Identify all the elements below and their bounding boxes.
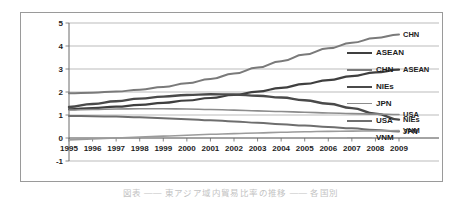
legend-label-asean: ASEAN xyxy=(376,49,404,57)
legend-label-nies: NIEs xyxy=(376,83,394,91)
y-tick-label-2: 2 xyxy=(59,88,64,97)
figure-caption: 図表 ―― 東アジア域内貿易比率の推移 ―― 各国別 xyxy=(0,186,461,200)
y-tick-label-0: 0 xyxy=(59,134,64,143)
figure-caption-text: 図表 ―― 東アジア域内貿易比率の推移 ―― 各国別 xyxy=(0,186,461,200)
x-tick-label-2005: 2005 xyxy=(296,144,314,153)
y-tick-label--1: -1 xyxy=(56,157,64,166)
legend-item-asean[interactable]: ASEAN xyxy=(347,44,433,61)
legend-swatch-nies xyxy=(347,86,372,88)
x-tick-label-2003: 2003 xyxy=(249,144,267,153)
x-tick-label-2001: 2001 xyxy=(202,144,220,153)
legend-item-jpn[interactable]: JPN xyxy=(347,95,433,112)
y-tick-label-5: 5 xyxy=(59,19,64,28)
legend-item-usa[interactable]: USA xyxy=(347,112,433,129)
x-tick-label-1995: 1995 xyxy=(60,144,78,153)
x-tick-label-1998: 1998 xyxy=(131,144,149,153)
chart-figure: -1012345 1995199619971998199920002001200… xyxy=(0,0,461,200)
x-tick-label-1999: 1999 xyxy=(154,144,172,153)
legend-item-vnm[interactable]: VNM xyxy=(347,129,433,146)
y-tick-label-4: 4 xyxy=(59,42,64,51)
y-tick-label-1: 1 xyxy=(59,111,64,120)
x-tick-label-2000: 2000 xyxy=(178,144,196,153)
chart-legend: ASEANCHNNIEsJPNUSAVNM xyxy=(347,44,433,146)
legend-swatch-chn xyxy=(347,69,372,71)
y-tick-label-3: 3 xyxy=(59,65,64,74)
x-tick-label-1997: 1997 xyxy=(107,144,125,153)
legend-swatch-asean xyxy=(347,52,372,54)
x-tick-label-2006: 2006 xyxy=(319,144,337,153)
x-tick-label-2002: 2002 xyxy=(225,144,243,153)
legend-item-nies[interactable]: NIEs xyxy=(347,78,433,95)
legend-item-chn[interactable]: CHN xyxy=(347,61,433,78)
legend-label-jpn: JPN xyxy=(376,100,392,108)
legend-swatch-usa xyxy=(347,120,372,122)
legend-label-chn: CHN xyxy=(376,66,393,74)
legend-swatch-jpn xyxy=(347,103,372,104)
end-label-chn: CHN xyxy=(403,30,419,39)
legend-swatch-vnm xyxy=(347,137,372,138)
x-tick-label-2004: 2004 xyxy=(272,144,290,153)
legend-label-usa: USA xyxy=(376,117,393,125)
legend-label-vnm: VNM xyxy=(376,134,394,142)
x-tick-label-1996: 1996 xyxy=(84,144,102,153)
